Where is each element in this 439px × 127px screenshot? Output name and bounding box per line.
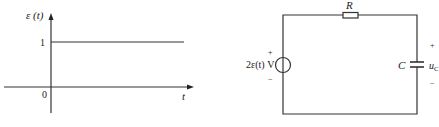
- level-tick-label: 1: [40, 37, 45, 48]
- voltage-plus-sign: +: [430, 41, 435, 50]
- rc-circuit: R + − 2ε(t) V C uC + −: [246, 0, 439, 114]
- origin-label: 0: [42, 89, 47, 100]
- resistor-label: R: [345, 0, 353, 11]
- source-minus-sign: −: [268, 75, 273, 84]
- y-axis-arrow-icon: [49, 13, 54, 20]
- capacitor-voltage-label: uC: [429, 60, 439, 73]
- voltage-minus-sign: −: [430, 79, 435, 88]
- source-label: 2ε(t) V: [246, 59, 275, 71]
- source-plus-sign: +: [268, 48, 273, 57]
- x-axis-arrow-icon: [187, 85, 194, 90]
- wire-bottom: [283, 67, 417, 114]
- capacitor-label: C: [398, 59, 406, 71]
- wire-top-right: [358, 15, 417, 62]
- figure-canvas: ε (t) 1 0 t R + − 2ε(t) V C uC + −: [0, 0, 439, 127]
- wire-top-left: [283, 15, 343, 58]
- resistor-symbol: [343, 13, 358, 19]
- x-axis-label: t: [182, 90, 186, 102]
- y-axis-label: ε (t): [26, 9, 44, 22]
- step-function-plot: ε (t) 1 0 t: [4, 9, 194, 113]
